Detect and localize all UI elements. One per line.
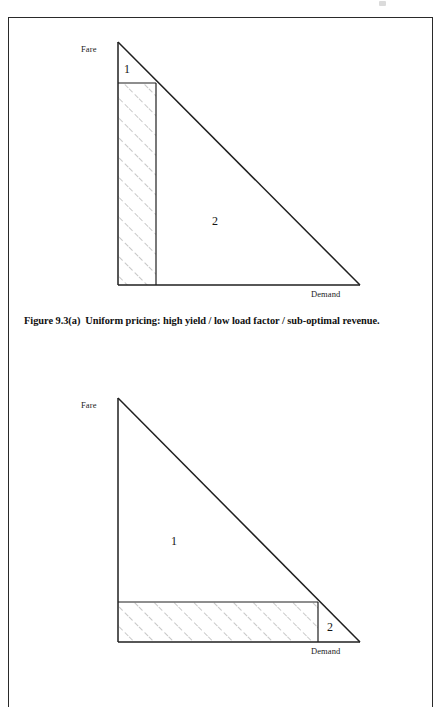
figure-a-fare-axis-label: Fare [81, 44, 97, 54]
figure-b-diagram: Fare Demand 1 2 [0, 350, 448, 662]
figure-a-caption-number: Figure 9.3(a) [24, 315, 80, 326]
figure-a-demand-axis-label: Demand [311, 289, 340, 299]
figure-a-caption-text: Uniform pricing: high yield / low load f… [85, 315, 379, 326]
figure-a-caption: Figure 9.3(a)Uniform pricing: high yield… [24, 314, 428, 327]
figure-a-hatched-revenue-rect [118, 83, 156, 285]
figure-a-region-label-2: 2 [212, 214, 218, 229]
figure-b-region-label-1: 1 [171, 534, 177, 549]
figure-b-hatched-revenue-rect [118, 602, 318, 642]
figure-b-region-label-2: 2 [327, 620, 333, 635]
figure-a-region-label-1: 1 [124, 62, 130, 77]
figure-a-svg [0, 0, 448, 310]
scanned-page: Fare Demand 1 2 Figure 9.3(a)Uniform pri… [0, 0, 448, 707]
figure-9-3-a: Fare Demand 1 2 Figure 9.3(a)Uniform pri… [0, 0, 448, 350]
figure-9-3-b: Fare Demand 1 2 Figure 9.3(b)Uniform pri… [0, 350, 448, 707]
figure-b-demand-axis-label: Demand [311, 646, 340, 656]
figure-a-diagram: Fare Demand 1 2 [0, 0, 448, 310]
figure-b-svg [0, 350, 448, 662]
figure-b-fare-axis-label: Fare [81, 400, 97, 410]
